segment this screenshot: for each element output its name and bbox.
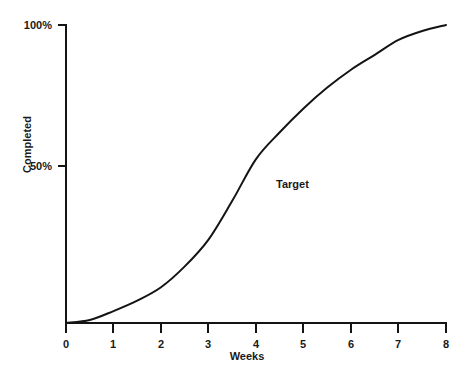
x-tick-label-6: 6: [336, 339, 366, 350]
chart-container: 100% 50% 0 1 2 3 4 5 6 7 8 Weeks Complet…: [0, 0, 472, 384]
x-tick-label-5: 5: [288, 339, 318, 350]
x-tick-label-0: 0: [51, 339, 81, 350]
x-tick-label-1: 1: [98, 339, 128, 350]
x-tick-label-3: 3: [193, 339, 223, 350]
x-tick-label-7: 7: [383, 339, 413, 350]
x-axis-title: Weeks: [202, 351, 292, 362]
target-curve-line: [66, 25, 446, 323]
x-tick-label-2: 2: [146, 339, 176, 350]
chart-plot-svg: [0, 0, 472, 384]
x-tick-label-4: 4: [241, 339, 271, 350]
y-tick-label-100: 100%: [0, 20, 52, 31]
target-series-label: Target: [276, 179, 309, 190]
y-axis-title: Completed: [22, 100, 33, 190]
x-tick-label-8: 8: [431, 339, 461, 350]
